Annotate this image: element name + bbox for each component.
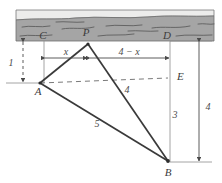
dot-p [86, 42, 89, 45]
label-point-b: B [165, 166, 172, 178]
label-point-c: C [39, 29, 47, 41]
label-dim-4-minus-x: 4 − x [118, 46, 140, 57]
label-point-e: E [176, 70, 184, 82]
dashed-line-ae [40, 78, 168, 83]
label-point-p: P [82, 26, 90, 38]
label-point-d: D [162, 29, 171, 41]
dot-b [166, 159, 170, 163]
label-dim-3: 3 [172, 109, 178, 120]
segment-pb [88, 44, 168, 161]
label-dim-x: x [63, 46, 69, 57]
geometry-figure: C P D A E B 1 x 4 − x 5 4 3 4 [0, 0, 222, 183]
label-dim-4-pb: 4 [125, 84, 130, 95]
label-dim-5: 5 [95, 118, 100, 129]
segment-ab [40, 83, 168, 161]
construction-lines [6, 41, 212, 162]
figure-canvas: C P D A E B 1 x 4 − x 5 4 3 4 [0, 0, 222, 183]
label-dim-4-right: 4 [206, 101, 211, 112]
triangle-segments [40, 44, 168, 161]
vertex-dots [38, 42, 170, 163]
label-dim-1: 1 [9, 57, 14, 68]
label-point-a: A [34, 85, 42, 97]
